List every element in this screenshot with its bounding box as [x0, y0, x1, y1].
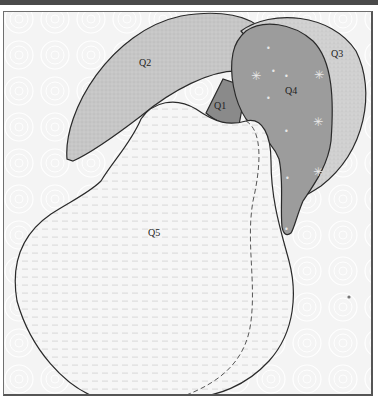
svg-text:•: •: [266, 94, 271, 103]
svg-text:•: •: [285, 174, 290, 183]
svg-text:•: •: [271, 67, 276, 76]
svg-text:✳: ✳: [313, 165, 323, 179]
top-bar: [0, 0, 378, 5]
label-q5: Q5: [148, 227, 160, 238]
label-q4: Q4: [285, 85, 297, 96]
svg-text:✳: ✳: [314, 68, 324, 82]
label-q2: Q2: [139, 57, 151, 68]
pear-diagram: ✳ • • • ✳ ✳ • ✳ • • • Q1 Q2 Q3 Q4 Q5: [4, 12, 373, 396]
label-q3: Q3: [331, 48, 343, 59]
svg-text:•: •: [284, 225, 289, 234]
svg-text:•: •: [266, 44, 271, 53]
label-q1: Q1: [214, 100, 226, 111]
svg-text:•: •: [284, 72, 289, 81]
svg-text:✳: ✳: [313, 115, 323, 129]
diagram-frame: ✳ • • • ✳ ✳ • ✳ • • • Q1 Q2 Q3 Q4 Q5: [3, 11, 373, 396]
marker-dot: [347, 295, 350, 298]
svg-text:✳: ✳: [251, 69, 261, 83]
svg-text:•: •: [284, 127, 289, 136]
